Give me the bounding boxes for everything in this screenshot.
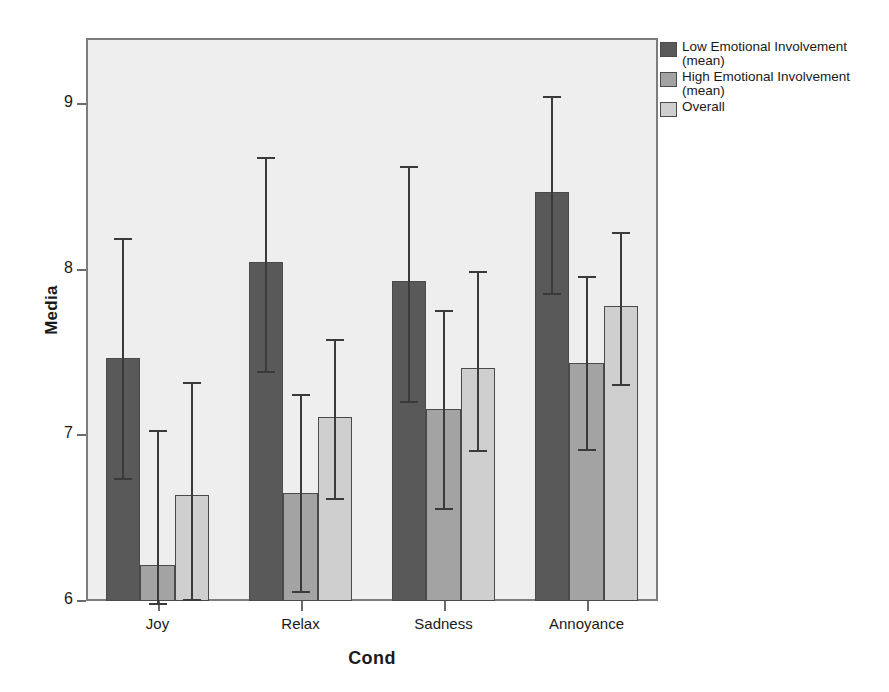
- y-axis-title: Media: [42, 250, 62, 370]
- x-axis-title: Cond: [86, 648, 658, 669]
- error-bar-cap-upper: [114, 238, 132, 240]
- error-bar-cap-upper: [612, 232, 630, 234]
- error-bar-line: [265, 157, 267, 371]
- y-tick-mark: [77, 600, 86, 602]
- legend-label: High Emotional Involvement (mean): [682, 70, 885, 98]
- error-bar-line: [551, 96, 553, 293]
- x-tick-label: Joy: [88, 615, 228, 632]
- error-bar-cap-upper: [400, 166, 418, 168]
- legend-item: Low Emotional Involvement (mean): [660, 40, 885, 68]
- x-tick-mark: [587, 601, 589, 611]
- y-tick-8: 8: [0, 270, 86, 271]
- error-bar-cap-upper: [326, 339, 344, 341]
- legend-swatch: [660, 102, 677, 117]
- y-tick-7: 7: [0, 435, 86, 436]
- y-tick-mark: [77, 434, 86, 436]
- error-bar-cap-lower: [183, 599, 201, 601]
- legend-swatch: [660, 42, 677, 57]
- y-tick-label: 8: [64, 259, 73, 277]
- x-tick-mark: [301, 601, 303, 611]
- y-tick-label: 6: [64, 590, 73, 608]
- y-tick-label: 7: [64, 424, 73, 442]
- y-tick-mark: [77, 103, 86, 105]
- error-bar-cap-lower: [292, 591, 310, 593]
- x-tick-label: Relax: [231, 615, 371, 632]
- error-bar-cap-upper: [469, 271, 487, 273]
- error-bar-cap-upper: [149, 430, 167, 432]
- error-bar-cap-upper: [578, 276, 596, 278]
- error-bar-line: [157, 430, 159, 602]
- error-bar-cap-lower: [435, 508, 453, 510]
- error-bar-cap-upper: [292, 394, 310, 396]
- error-bar-line: [586, 276, 588, 448]
- error-bar-line: [408, 166, 410, 401]
- bar-chart-figure: Media 6789 JoyRelaxSadnessAnnoyance Cond…: [0, 0, 889, 692]
- error-bar-cap-lower: [257, 371, 275, 373]
- error-bar-cap-lower: [578, 449, 596, 451]
- error-bar-cap-lower: [469, 450, 487, 452]
- error-bar-line: [443, 310, 445, 509]
- error-bar-line: [191, 382, 193, 599]
- legend-label: Overall: [682, 100, 885, 114]
- error-bar-line: [334, 339, 336, 498]
- chart-legend: Low Emotional Involvement (mean)High Emo…: [660, 40, 885, 122]
- x-tick-label: Sadness: [374, 615, 514, 632]
- legend-item: High Emotional Involvement (mean): [660, 70, 885, 98]
- y-tick-mark: [77, 269, 86, 271]
- error-bar-cap-upper: [257, 157, 275, 159]
- y-tick-label: 9: [64, 93, 73, 111]
- error-bar-cap-lower: [612, 384, 630, 386]
- error-bar-cap-upper: [543, 96, 561, 98]
- legend-label: Low Emotional Involvement (mean): [682, 40, 885, 68]
- x-tick-mark: [444, 601, 446, 611]
- error-bar-cap-upper: [435, 310, 453, 312]
- x-tick-label: Annoyance: [517, 615, 657, 632]
- error-bar-line: [300, 394, 302, 591]
- error-bar-line: [122, 238, 124, 478]
- error-bar-cap-upper: [183, 382, 201, 384]
- error-bar-cap-lower: [400, 401, 418, 403]
- error-bar-cap-lower: [543, 293, 561, 295]
- error-bar-cap-lower: [149, 603, 167, 605]
- error-bar-cap-lower: [114, 478, 132, 480]
- legend-item: Overall: [660, 100, 885, 120]
- error-bar-cap-lower: [326, 498, 344, 500]
- error-bar-line: [620, 232, 622, 384]
- legend-swatch: [660, 72, 677, 87]
- y-tick-6: 6: [0, 601, 86, 602]
- error-bar-line: [477, 271, 479, 450]
- y-tick-9: 9: [0, 104, 86, 105]
